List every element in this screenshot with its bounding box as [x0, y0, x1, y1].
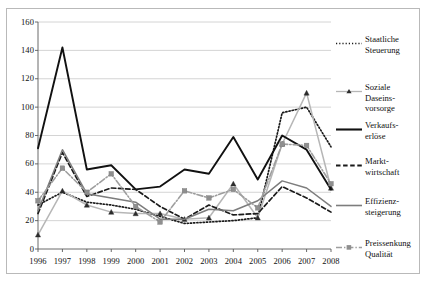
x-tick-label: 1997	[49, 256, 75, 266]
x-tick-label: 1996	[25, 256, 51, 266]
legend-triangle-line-key	[336, 83, 362, 94]
legend-item-label: Soziale Daseins- vorsorge	[365, 82, 395, 114]
x-tick-label: 1999	[98, 256, 124, 266]
legend-item: Staatliche Steuerung	[336, 34, 427, 55]
legend-item-label: Staatliche Steuerung	[365, 34, 400, 55]
legend-item-label: Effizienz- steigerung	[365, 196, 401, 217]
y-tick-label: 140	[8, 45, 34, 55]
series-line-4	[38, 150, 331, 220]
legend-item: Markt- wirtschaft	[336, 156, 427, 177]
legend-item: Preissenkung Qualität	[336, 238, 427, 259]
y-tick-label: 100	[8, 102, 34, 112]
x-tick-label: 2007	[294, 256, 320, 266]
x-tick-label: 2004	[220, 256, 246, 266]
legend-item-label: Verkaufs- erlöse	[365, 120, 398, 141]
legend-square-dashdot-key	[336, 239, 362, 250]
x-tick-label: 2001	[147, 256, 173, 266]
legend-dashed-key	[336, 157, 362, 168]
series-line-0	[38, 107, 331, 223]
legend-item: Effizienz- steigerung	[336, 196, 427, 217]
x-tick-label: 1998	[74, 256, 100, 266]
legend-dotted-key	[336, 35, 362, 46]
legend-item-label: Markt- wirtschaft	[365, 156, 399, 177]
x-tick-label: 2002	[172, 256, 198, 266]
y-tick-label: 20	[8, 215, 34, 225]
chart-figure: 020406080100120140160 199619971998199920…	[0, 0, 427, 287]
y-tick-label: 60	[8, 158, 34, 168]
x-tick-label: 2003	[196, 256, 222, 266]
y-tick-label: 0	[8, 244, 34, 254]
y-tick-label: 160	[8, 17, 34, 27]
legend-solid-gray-key	[336, 197, 362, 208]
series-line-2	[38, 48, 331, 190]
y-tick-label: 40	[8, 187, 34, 197]
y-tick-label: 80	[8, 130, 34, 140]
y-tick-label: 120	[8, 73, 34, 83]
legend-solid-thick-key	[336, 121, 362, 132]
legend-item-label: Preissenkung Qualität	[365, 238, 411, 259]
legend-item: Soziale Daseins- vorsorge	[336, 82, 427, 114]
x-tick-label: 2006	[269, 256, 295, 266]
x-tick-label: 2000	[123, 256, 149, 266]
legend-item: Verkaufs- erlöse	[336, 120, 427, 141]
chart-legend: Staatliche SteuerungSoziale Daseins- vor…	[336, 16, 424, 266]
x-tick-label: 2005	[245, 256, 271, 266]
